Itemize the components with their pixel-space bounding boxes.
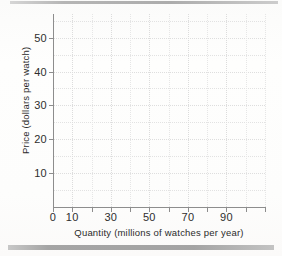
y-tick-label: 20 <box>34 133 47 145</box>
gridline-vertical <box>72 14 73 207</box>
y-tick-label: 30 <box>34 99 47 111</box>
gridline-vertical <box>130 14 131 207</box>
gridline-horizontal <box>54 105 265 106</box>
gridline-vertical <box>111 14 112 207</box>
y-tick-mark <box>49 72 54 73</box>
x-tick-label: 10 <box>66 211 79 223</box>
gridline-horizontal <box>54 139 265 140</box>
y-tick-label: 50 <box>34 32 47 44</box>
gridline-vertical <box>169 14 170 207</box>
x-tick-mark <box>246 207 247 212</box>
y-tick-mark <box>49 173 54 174</box>
y-axis-line <box>53 14 54 208</box>
gridline-horizontal-minor <box>54 122 265 123</box>
x-tick-label: 50 <box>143 211 156 223</box>
gridline-horizontal-minor <box>54 21 265 22</box>
x-tick-mark <box>92 207 93 212</box>
x-tick-mark <box>169 207 170 212</box>
gridline-horizontal-minor <box>54 156 265 157</box>
x-axis-line <box>53 207 265 208</box>
chart-page: Price (dollars per watch) 1020304050 010… <box>0 0 282 256</box>
gridline-vertical <box>207 14 208 207</box>
y-axis-title-text: Price (dollars per watch) <box>20 14 31 154</box>
y-tick-label: 10 <box>34 167 47 179</box>
x-tick-label: 0 <box>50 211 56 223</box>
x-tick-label: 70 <box>181 211 194 223</box>
bottom-divider-rule <box>8 245 274 250</box>
gridline-horizontal-minor <box>54 55 265 56</box>
y-tick-label: 40 <box>34 66 47 78</box>
gridline-horizontal-minor <box>54 88 265 89</box>
gridline-horizontal <box>54 72 265 73</box>
gridline-vertical <box>188 14 189 207</box>
y-axis-title: Price (dollars per watch) <box>18 14 32 154</box>
x-tick-mark <box>207 207 208 212</box>
x-tick-label: 30 <box>104 211 117 223</box>
top-divider-rule <box>10 1 278 4</box>
x-tick-mark <box>265 207 266 212</box>
x-tick-mark <box>130 207 131 212</box>
gridline-vertical <box>149 14 150 207</box>
y-tick-mark <box>49 38 54 39</box>
y-tick-mark <box>49 139 54 140</box>
x-tick-label: 90 <box>220 211 233 223</box>
gridline-vertical <box>265 14 266 207</box>
gridline-vertical <box>246 14 247 207</box>
gridline-vertical <box>226 14 227 207</box>
x-axis-title: Quantity (millions of watches per year) <box>53 227 265 238</box>
gridline-horizontal-minor <box>54 190 265 191</box>
y-tick-mark <box>49 105 54 106</box>
gridline-horizontal <box>54 38 265 39</box>
gridline-horizontal <box>54 173 265 174</box>
plot-area: 1020304050 01030507090 <box>53 14 265 208</box>
gridline-vertical <box>92 14 93 207</box>
